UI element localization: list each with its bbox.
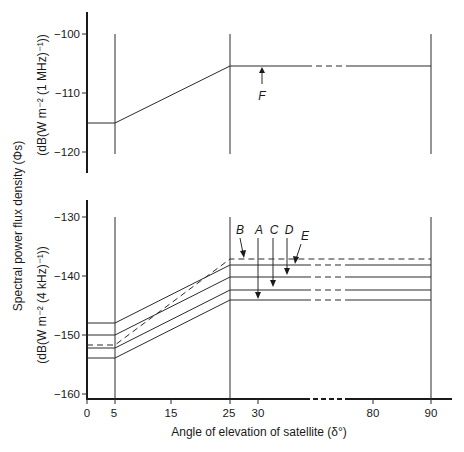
x-tick-label: 0 [84,407,90,419]
label-E: E [301,229,310,243]
lower-tick-label: −130 [54,211,80,223]
x-tick-label: 15 [165,407,178,419]
label-C: C [270,223,279,237]
label-D: D [285,223,294,237]
x-tick-label: 5 [111,407,117,419]
arrow-C [270,238,276,287]
lower-panel: −130 −140 −150 −160 0 5 15 25 30 80 90 A… [54,200,452,439]
label-B: B [236,223,244,237]
upper-tick-label: −110 [55,87,80,99]
label-F: F [258,89,266,103]
arrow-B [240,238,246,258]
arrow-E [293,244,301,264]
x-tick-label: 25 [223,407,236,419]
y-axis-upper-unit: (dB(W m⁻² (1 MHz)⁻¹)) [35,34,49,155]
y-axis-title: Spectral power flux density (Φs) (dB(W m… [11,34,49,363]
lower-tick-label: −150 [54,329,80,341]
x-axis-title: Angle of elevation of satellite (δ°) [171,425,347,439]
series-D [87,277,431,335]
series-A [87,300,431,358]
upper-panel: −100 −110 −120 F [54,12,431,173]
series-B [87,259,431,345]
upper-tick-label: −120 [54,146,80,158]
series-C [87,290,431,348]
x-tick-label: 90 [425,407,438,419]
x-tick-label: 80 [367,407,380,419]
upper-tick-label: −100 [54,28,80,40]
y-axis-lower-unit: (dB(W m⁻² (4 kHz)⁻¹)) [35,246,49,363]
spectral-flux-chart: Spectral power flux density (Φs) (dB(W m… [0,0,464,452]
lower-tick-label: −160 [54,388,80,400]
label-A: A [254,223,263,237]
lower-tick-label: −140 [54,270,80,282]
x-tick-label: 30 [252,407,265,419]
arrow-D [284,238,290,275]
y-axis-main-label: Spectral power flux density (Φs) [11,141,25,311]
